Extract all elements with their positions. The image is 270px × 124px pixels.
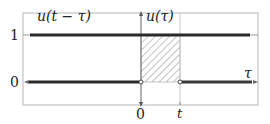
t-open-point — [178, 80, 182, 84]
x-axis-right-arrow-icon — [253, 80, 258, 84]
overlap-region — [141, 35, 180, 82]
shifted-step-label: u(t − τ) — [37, 9, 91, 23]
y-tick-zero-label: 0 — [10, 75, 19, 89]
step-label: u(τ) — [146, 9, 174, 23]
y-tick-one-label: 1 — [10, 28, 19, 42]
x-axis-label: τ — [244, 66, 252, 80]
x-tick-t-label: t — [177, 107, 182, 120]
origin-open-point — [139, 80, 143, 84]
x-tick-zero-label: 0 — [136, 107, 145, 121]
x-axis-left-arrow-icon — [24, 80, 29, 84]
convolution-step-diagram: u(t − τ) u(τ) 1 0 0 t τ — [0, 0, 270, 124]
